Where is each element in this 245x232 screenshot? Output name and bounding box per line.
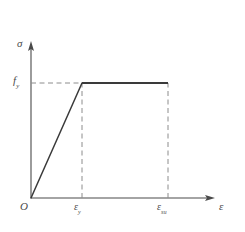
ultimate-strain-subscript: su	[161, 208, 167, 215]
epsilon-axis-label: ε	[219, 201, 223, 212]
stress-strain-diagram: σ ε fy O εy εsu	[0, 0, 245, 232]
origin-label: O	[20, 201, 28, 212]
sigma-axis-label: σ	[17, 38, 22, 49]
yield-strain-label: εy	[74, 202, 81, 214]
yield-strain-subscript: y	[78, 208, 81, 215]
yield-stress-label: fy	[13, 75, 19, 89]
plot-area	[0, 0, 245, 232]
yield-stress-subscript: y	[16, 82, 19, 89]
elastic-branch-curve	[31, 83, 82, 198]
ultimate-strain-label: εsu	[157, 202, 166, 214]
